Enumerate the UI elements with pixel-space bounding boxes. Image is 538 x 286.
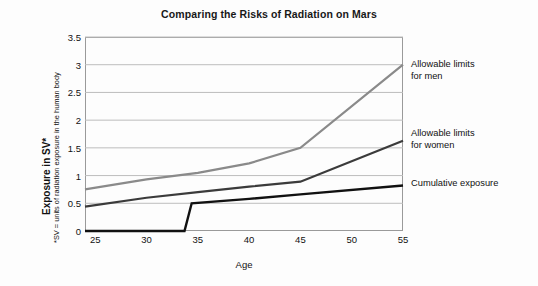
x-tick-label: 40 — [244, 234, 255, 245]
x-axis-tick-labels: 25303540455055 — [85, 234, 403, 250]
x-tick-label: 55 — [398, 234, 409, 245]
x-tick-label: 45 — [295, 234, 306, 245]
series-line — [85, 186, 403, 231]
chart-figure: Comparing the Risks of Radiation on Mars… — [0, 0, 538, 286]
annotation-women-line1: Allowable limits — [411, 128, 475, 140]
plot-canvas — [85, 37, 403, 231]
annotation-cumulative-exposure: Cumulative exposure — [411, 178, 498, 190]
y-tick-label: 1 — [47, 170, 81, 181]
annotation-men-line2: for men — [411, 71, 475, 83]
y-tick-label: 2 — [47, 115, 81, 126]
annotation-men-line1: Allowable limits — [411, 59, 475, 71]
annotation-cum-line1: Cumulative exposure — [411, 178, 498, 190]
x-tick-label: 30 — [141, 234, 152, 245]
y-tick-label: 1.5 — [47, 142, 81, 153]
chart-title: Comparing the Risks of Radiation on Mars — [0, 8, 538, 20]
annotation-allowable-limits-women: Allowable limits for women — [411, 128, 475, 151]
x-tick-label: 25 — [90, 234, 101, 245]
annotation-allowable-limits-men: Allowable limits for men — [411, 59, 475, 82]
y-tick-label: 2.5 — [47, 87, 81, 98]
plot-area — [85, 37, 403, 231]
series-line — [85, 141, 403, 207]
x-axis-label: Age — [85, 259, 403, 270]
y-tick-label: 0.5 — [47, 198, 81, 209]
annotation-women-line2: for women — [411, 140, 475, 152]
gridlines — [85, 37, 403, 203]
y-tick-label: 3 — [47, 59, 81, 70]
x-tick-label: 50 — [346, 234, 357, 245]
y-tick-label: 0 — [47, 226, 81, 237]
y-tick-label: 3.5 — [47, 32, 81, 43]
series-line — [85, 65, 403, 190]
x-tick-label: 35 — [193, 234, 204, 245]
y-axis-tick-labels: 00.511.522.533.5 — [45, 37, 81, 231]
